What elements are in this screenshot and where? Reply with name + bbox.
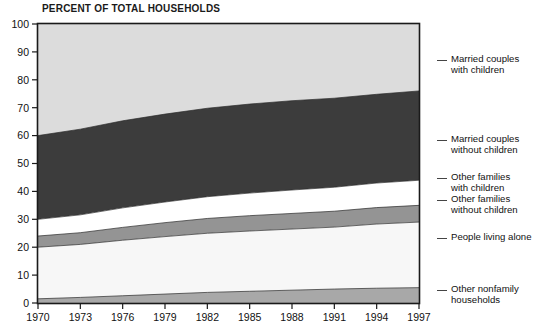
legend-item-1: Married coupleswith children: [451, 53, 519, 76]
y-tick-label: 20: [17, 241, 29, 253]
y-tick-label: 50: [17, 157, 29, 169]
x-tick-label: 1991: [323, 311, 347, 323]
legend-item-2: Married coupleswithout children: [451, 133, 519, 156]
y-tick-label: 90: [17, 46, 29, 58]
y-tick-label: 10: [17, 269, 29, 281]
legend-leader-line: [437, 140, 447, 141]
x-tick-label: 1979: [153, 311, 177, 323]
legend-item-label-line1: Married couples: [451, 53, 519, 64]
y-tick-label: 60: [17, 129, 29, 141]
legend-item-3: Other familieswith children: [451, 171, 510, 194]
legend-leader-line: [437, 178, 447, 179]
y-tick-label: 100: [11, 18, 29, 30]
legend-item-6: Other nonfamilyhouseholds: [451, 283, 519, 306]
legend-item-label-line1: Other families: [451, 193, 518, 204]
legend-item-label-line1: Other nonfamily: [451, 283, 519, 294]
legend-item-label-line2: with children: [451, 64, 519, 75]
legend-leader-line: [437, 290, 447, 291]
x-tick-label: 1985: [238, 311, 262, 323]
x-tick-label: 1994: [365, 311, 389, 323]
y-tick-label: 30: [17, 213, 29, 225]
x-tick-label: 1997: [407, 311, 431, 323]
legend-leader-line: [437, 60, 447, 61]
legend-item-5: People living alone: [451, 231, 532, 242]
y-tick-label: 80: [17, 74, 29, 86]
x-axis-labels: 1970197319761979198219851988199119941997: [26, 311, 431, 323]
legend-item-label-line2: without children: [451, 144, 519, 155]
legend-item-label-line2: households: [451, 294, 519, 305]
x-tick-label: 1982: [196, 311, 220, 323]
legend-item-label-line1: People living alone: [451, 231, 532, 242]
chart-container: PERCENT OF TOTAL HOUSEHOLDS 010203040506…: [0, 0, 548, 336]
y-tick-label: 70: [17, 102, 29, 114]
legend-leader-line: [437, 200, 447, 201]
legend-item-label-line1: Other families: [451, 171, 510, 182]
plot-bands: [38, 24, 419, 303]
legend-item-4: Other familieswithout children: [451, 193, 518, 216]
legend-item-label-line1: Married couples: [451, 133, 519, 144]
y-axis-labels: 0102030405060708090100: [11, 18, 29, 309]
legend-leader-line: [437, 238, 447, 239]
x-tick-label: 1988: [280, 311, 304, 323]
y-tick-label: 40: [17, 185, 29, 197]
y-tick-label: 0: [23, 297, 29, 309]
x-tick-label: 1973: [69, 311, 93, 323]
legend-item-label-line2: without children: [451, 204, 518, 215]
x-tick-label: 1970: [26, 311, 50, 323]
x-tick-label: 1976: [111, 311, 135, 323]
